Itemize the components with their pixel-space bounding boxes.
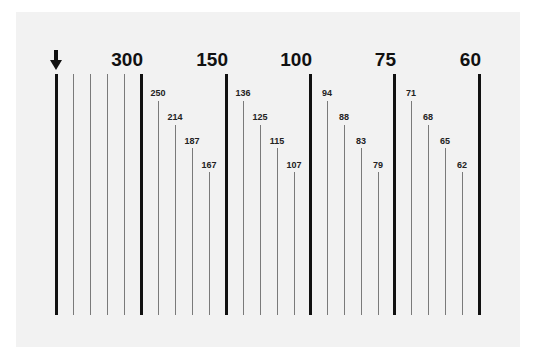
- major-tick-label: 150: [196, 49, 228, 71]
- minor-tick-line: [243, 101, 244, 315]
- major-tick-label: 300: [111, 49, 143, 71]
- minor-tick-line: [327, 101, 328, 315]
- minor-tick-line: [294, 172, 295, 315]
- minor-tick-line: [462, 172, 463, 315]
- minor-tick-line: [378, 172, 379, 315]
- minor-tick-label: 83: [356, 136, 366, 147]
- minor-tick-label: 214: [167, 112, 182, 123]
- minor-tick-line: [411, 101, 412, 315]
- minor-tick-label: 107: [286, 160, 301, 171]
- minor-tick-line: [277, 148, 278, 315]
- major-tick-label: 60: [460, 49, 481, 71]
- minor-tick-label: 71: [406, 88, 416, 99]
- minor-tick-line: [361, 148, 362, 315]
- minor-tick-line: [344, 125, 345, 315]
- major-tick-line: [55, 74, 58, 315]
- minor-tick-label: 250: [150, 88, 165, 99]
- major-tick-label: 75: [375, 49, 396, 71]
- minor-tick-label: 167: [201, 160, 216, 171]
- minor-tick-line: [73, 74, 74, 315]
- minor-tick-label: 62: [457, 160, 467, 171]
- minor-tick-line: [124, 74, 125, 315]
- minor-tick-label: 94: [322, 88, 332, 99]
- minor-tick-line: [192, 148, 193, 315]
- major-tick-line: [225, 74, 228, 315]
- minor-tick-label: 136: [235, 88, 250, 99]
- minor-tick-label: 125: [252, 112, 267, 123]
- minor-tick-line: [445, 148, 446, 315]
- minor-tick-label: 79: [373, 160, 383, 171]
- minor-tick-line: [260, 125, 261, 315]
- major-tick-label: 100: [280, 49, 312, 71]
- minor-tick-label: 65: [440, 136, 450, 147]
- minor-tick-label: 115: [270, 136, 285, 147]
- major-tick-line: [393, 74, 396, 315]
- down-arrow-icon: [50, 50, 62, 70]
- major-tick-line: [140, 74, 143, 315]
- major-tick-line: [309, 74, 312, 315]
- minor-tick-line: [175, 125, 176, 315]
- minor-tick-line: [428, 125, 429, 315]
- minor-tick-label: 187: [184, 136, 199, 147]
- minor-tick-label: 88: [339, 112, 349, 123]
- minor-tick-line: [209, 172, 210, 315]
- minor-tick-line: [90, 74, 91, 315]
- minor-tick-label: 68: [423, 112, 433, 123]
- major-tick-line: [478, 74, 481, 315]
- minor-tick-line: [107, 74, 108, 315]
- minor-tick-line: [158, 101, 159, 315]
